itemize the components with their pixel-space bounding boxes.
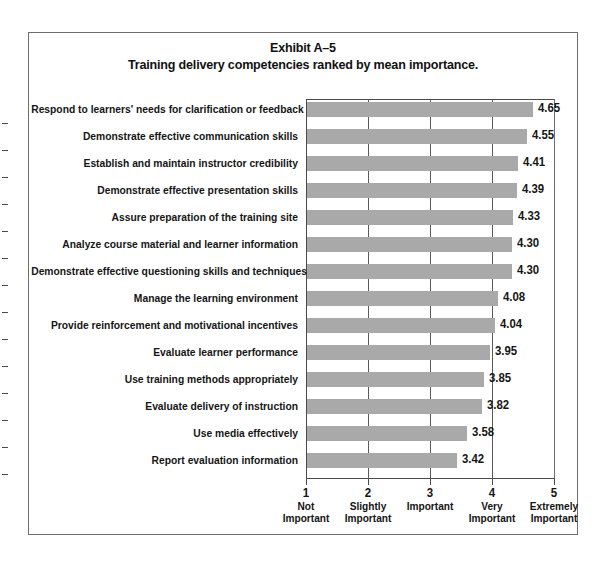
- category-label: Evaluate delivery of instruction: [31, 400, 298, 413]
- bar-value-label: 4.30: [517, 236, 539, 250]
- bar: [307, 453, 457, 468]
- plot-area: 4.654.554.414.394.334.304.304.084.043.95…: [306, 99, 554, 479]
- chart-title-line-1: Exhibit A–5: [48, 39, 558, 56]
- bar: [307, 210, 513, 225]
- x-axis-tick-word: Important: [513, 512, 596, 525]
- category-label: Establish and maintain instructor credib…: [31, 157, 298, 170]
- category-label: Analyze course material and learner info…: [31, 238, 298, 251]
- bar-row: 4.65: [307, 102, 593, 117]
- bar: [307, 318, 495, 333]
- bar: [307, 426, 467, 441]
- category-label: Respond to learners' needs for clarifica…: [31, 103, 298, 116]
- bar: [307, 345, 490, 360]
- bar: [307, 156, 518, 171]
- bar-value-label: 4.08: [503, 290, 525, 304]
- bar-value-label: 4.04: [500, 317, 522, 331]
- category-tick: [2, 312, 8, 313]
- x-axis-tick-mark: [492, 479, 493, 485]
- category-tick: [2, 123, 8, 124]
- category-tick: [2, 258, 8, 259]
- x-axis-tick-mark: [306, 479, 307, 485]
- category-tick: [2, 339, 8, 340]
- bar: [307, 237, 512, 252]
- category-tick: [2, 285, 8, 286]
- bar-value-label: 4.39: [522, 182, 544, 196]
- category-tick: [2, 474, 8, 475]
- bar-row: 3.58: [307, 426, 527, 441]
- category-labels: Respond to learners' needs for clarifica…: [8, 99, 306, 479]
- category-tick: [2, 366, 8, 367]
- bar-value-label: 3.42: [462, 452, 484, 466]
- category-label: Use media effectively: [31, 427, 298, 440]
- chart-title-line-2: Training delivery competencies ranked by…: [48, 56, 558, 73]
- category-tick: [2, 393, 8, 394]
- bar: [307, 183, 517, 198]
- x-axis-tick-mark: [368, 479, 369, 485]
- category-label: Demonstrate effective communication skil…: [31, 130, 298, 143]
- category-tick: [2, 231, 8, 232]
- bar-row: 4.55: [307, 129, 587, 144]
- bar: [307, 102, 533, 117]
- bar-row: 4.30: [307, 264, 572, 279]
- category-tick: [2, 420, 8, 421]
- bar-row: 4.33: [307, 210, 573, 225]
- bar: [307, 291, 498, 306]
- bar-value-label: 3.82: [487, 398, 509, 412]
- category-tick: [2, 150, 8, 151]
- bar-row: 4.30: [307, 237, 572, 252]
- category-label: Manage the learning environment: [31, 292, 298, 305]
- figure-frame: Exhibit A–5 Training delivery competenci…: [28, 32, 578, 535]
- category-tick: [2, 447, 8, 448]
- bar-value-label: 4.41: [523, 155, 545, 169]
- bar-row: 4.08: [307, 291, 558, 306]
- category-label: Demonstrate effective questioning skills…: [31, 265, 298, 278]
- chart-title-block: Exhibit A–5 Training delivery competenci…: [29, 39, 577, 73]
- category-label: Assure preparation of the training site: [31, 211, 298, 224]
- bar-row: 3.82: [307, 399, 542, 414]
- category-tick: [2, 177, 8, 178]
- category-label: Evaluate learner performance: [31, 346, 298, 359]
- x-axis-tick-word: Extremely: [513, 500, 596, 513]
- bar-row: 4.04: [307, 318, 555, 333]
- bar-value-label: 4.65: [538, 101, 560, 115]
- category-tick: [2, 204, 8, 205]
- category-label: Demonstrate effective presentation skill…: [31, 184, 298, 197]
- x-axis-tick-word: Important: [327, 512, 410, 525]
- category-label: Use training methods appropriately: [31, 373, 298, 386]
- bar-row: 3.95: [307, 345, 550, 360]
- bar-row: 4.39: [307, 183, 577, 198]
- bar-value-label: 4.30: [517, 263, 539, 277]
- bar-row: 4.41: [307, 156, 578, 171]
- bar: [307, 399, 482, 414]
- bar-value-label: 4.33: [518, 209, 540, 223]
- bar-value-label: 4.55: [532, 128, 554, 142]
- x-axis-tick-mark: [554, 479, 555, 485]
- bar-row: 3.42: [307, 453, 517, 468]
- x-axis-tick-label: 5ExtremelyImportant: [513, 487, 596, 525]
- bar: [307, 372, 484, 387]
- bar-value-label: 3.95: [495, 344, 517, 358]
- category-label: Report evaluation information: [31, 454, 298, 467]
- x-axis-tick-mark: [430, 479, 431, 485]
- bar: [307, 129, 527, 144]
- bar-value-label: 3.85: [489, 371, 511, 385]
- x-axis-tick-number: 5: [513, 487, 596, 500]
- bar-value-label: 3.58: [472, 425, 494, 439]
- bar: [307, 264, 512, 279]
- bar-row: 3.85: [307, 372, 544, 387]
- category-label: Provide reinforcement and motivational i…: [31, 319, 298, 332]
